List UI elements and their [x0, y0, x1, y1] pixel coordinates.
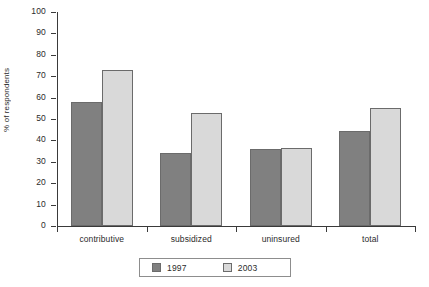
- x-axis-group-label-contributive: contributive: [57, 234, 147, 244]
- legend-entry-1997: 1997: [152, 259, 187, 276]
- y-axis-tick-label: 0: [0, 220, 46, 230]
- x-axis-group-label-total: total: [326, 234, 416, 244]
- y-axis-tick-mark: [51, 140, 56, 141]
- y-axis-tick-mark: [51, 76, 56, 77]
- x-axis-group-label-subsidized: subsidized: [147, 234, 237, 244]
- y-axis-tick-label: 100: [0, 6, 46, 16]
- legend-entry-2003: 2003: [223, 259, 258, 276]
- y-axis-tick-mark: [51, 183, 56, 184]
- y-axis-tick-label: 80: [0, 49, 46, 59]
- bar-chart: % of respondents 0102030405060708090100 …: [0, 0, 429, 287]
- y-axis-tick-mark: [51, 119, 56, 120]
- y-axis-tick-mark: [51, 12, 56, 13]
- bar-contributive-1997: [71, 102, 102, 226]
- y-axis-tick-label: 90: [0, 27, 46, 37]
- y-axis-tick-mark: [51, 98, 56, 99]
- x-axis-end-tick-mark: [57, 227, 58, 232]
- y-axis-tick-label: 70: [0, 70, 46, 80]
- x-axis-tick-mark: [147, 227, 148, 232]
- y-axis-tick-label: 40: [0, 134, 46, 144]
- x-axis-end-tick-mark: [415, 227, 416, 232]
- y-axis-tick-mark: [51, 205, 56, 206]
- bar-uninsured-2003: [281, 148, 312, 226]
- bar-contributive-2003: [102, 70, 133, 226]
- y-axis-tick-label: 50: [0, 113, 46, 123]
- bar-subsidized-1997: [160, 153, 191, 226]
- plot-area: [57, 12, 415, 226]
- bar-subsidized-2003: [191, 113, 222, 226]
- legend-swatch-1997: [152, 263, 161, 272]
- y-axis-tick-mark: [51, 55, 56, 56]
- chart-legend: 19972003: [139, 258, 291, 277]
- legend-label-2003: 2003: [238, 263, 258, 273]
- x-axis-tick-mark: [326, 227, 327, 232]
- y-axis-tick-mark: [51, 33, 56, 34]
- y-axis-tick-label: 10: [0, 199, 46, 209]
- legend-swatch-2003: [223, 263, 232, 272]
- y-axis-tick-mark: [51, 226, 56, 227]
- legend-label-1997: 1997: [167, 263, 187, 273]
- y-axis-tick-label: 60: [0, 92, 46, 102]
- bar-total-1997: [339, 131, 370, 226]
- bar-total-2003: [370, 108, 401, 226]
- y-axis-tick-mark: [51, 162, 56, 163]
- x-axis-tick-mark: [236, 227, 237, 232]
- y-axis-tick-label: 30: [0, 156, 46, 166]
- x-axis-group-label-uninsured: uninsured: [236, 234, 326, 244]
- bar-uninsured-1997: [250, 149, 281, 226]
- y-axis-tick-label: 20: [0, 177, 46, 187]
